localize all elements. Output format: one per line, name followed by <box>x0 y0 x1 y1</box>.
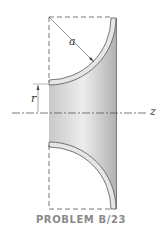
figure-caption: PROBLEM B/23 <box>0 214 162 225</box>
z-axis-label: z <box>150 105 156 118</box>
diagram <box>0 0 162 233</box>
radius-r-label: r <box>31 92 36 105</box>
radius-a-label: a <box>69 35 76 48</box>
